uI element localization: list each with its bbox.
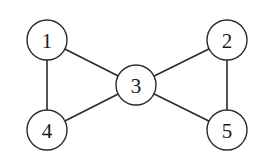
node-label: 3 — [131, 74, 142, 98]
node-2: 2 — [207, 20, 247, 60]
graph-diagram: 1 2 3 4 5 — [0, 0, 266, 160]
node-label: 2 — [222, 29, 233, 53]
node-1: 1 — [27, 20, 67, 60]
node-label: 5 — [222, 119, 233, 143]
nodes: 1 2 3 4 5 — [27, 20, 247, 150]
node-4: 4 — [27, 110, 67, 150]
node-5: 5 — [207, 110, 247, 150]
node-label: 4 — [42, 119, 53, 143]
node-3: 3 — [116, 65, 156, 105]
node-label: 1 — [42, 29, 53, 53]
